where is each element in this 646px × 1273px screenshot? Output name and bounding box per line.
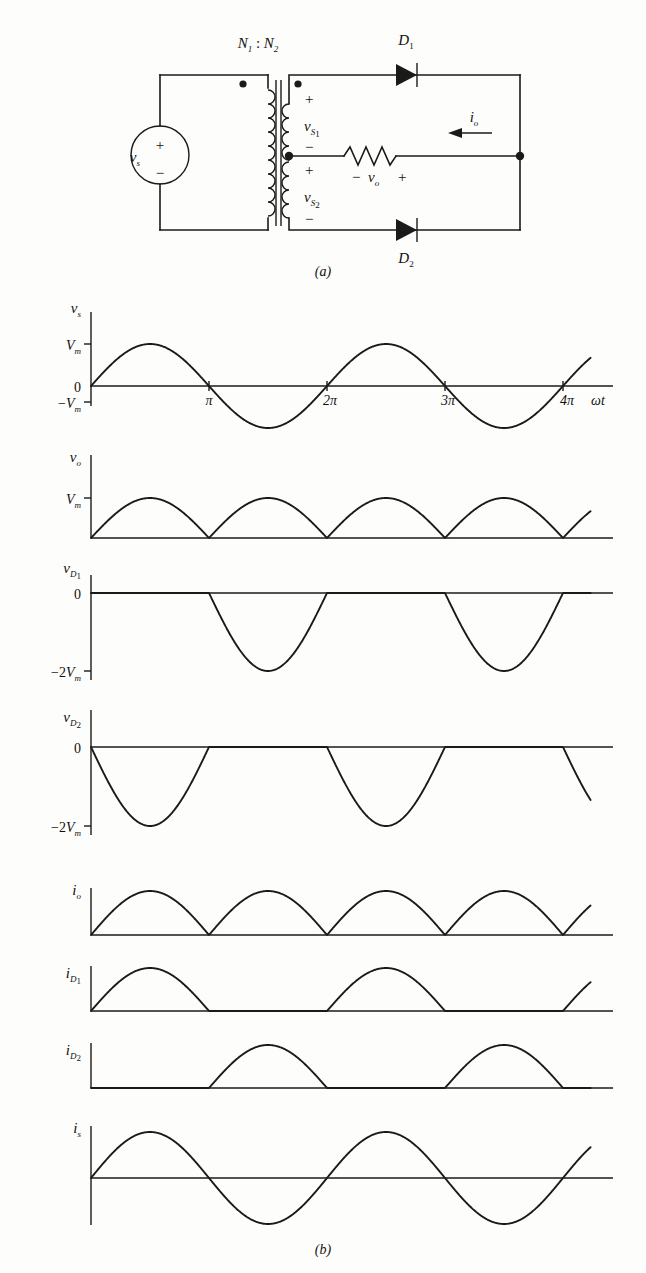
vd1-ylabel-neg2vm: −2Vm <box>51 665 81 683</box>
vs-xtick-4pi: 4π <box>560 393 575 408</box>
output-voltage-label: vo <box>368 169 380 188</box>
primary-winding <box>268 90 275 216</box>
vd1-axis-label: vD1 <box>63 560 81 581</box>
resistor-symbol <box>344 147 396 165</box>
caption-b: (b) <box>315 1242 332 1258</box>
io-waveform <box>91 891 591 935</box>
secondary-top-voltage-label: vS1 <box>304 118 320 139</box>
turns-ratio-label: N1 : N2 <box>237 35 279 54</box>
plot-vs: vs Vm 0 −Vm π 2π 3π 4π ωt <box>58 300 613 428</box>
diode-d2-label: D2 <box>397 250 413 269</box>
primary-polarity-dot-icon <box>239 80 246 87</box>
diode-d1-triangle <box>396 64 417 86</box>
circuit-diagram: vs + − N1 : N2 + vS1 <box>130 32 524 280</box>
io-axis-label: io <box>72 882 81 901</box>
diode-d1-label: D1 <box>397 32 413 51</box>
vo-ylabel-vm: Vm <box>66 492 82 510</box>
secondary-top-minus-sign: − <box>305 139 313 155</box>
plot-vo: vo Vm <box>66 449 613 538</box>
vs-ylabel-neg-vm: −Vm <box>58 396 81 414</box>
vd2-waveform <box>91 747 591 826</box>
vs-ylabel-vm: Vm <box>66 338 82 356</box>
vs-xtick-2pi: 2π <box>323 393 338 408</box>
plot-vd1: vD1 0 −2Vm <box>51 560 613 683</box>
secondary-top-plus-sign: + <box>305 91 313 107</box>
id1-axis-label: iD1 <box>66 965 81 986</box>
plot-vd2: vD2 0 −2Vm <box>51 709 613 838</box>
vo-axis-label: vo <box>70 449 82 468</box>
output-voltage-plus-sign: + <box>398 169 406 185</box>
vd2-ylabel-zero: 0 <box>74 741 81 756</box>
primary-coil-turns <box>268 90 275 216</box>
vo-waveform <box>91 498 591 538</box>
id1-waveform <box>91 968 591 1011</box>
io-arrow-head <box>448 128 462 138</box>
source-plus-sign: + <box>156 137 164 153</box>
vs-ylabel-zero: 0 <box>74 380 81 395</box>
secondary-bottom-coil-turns <box>282 162 289 218</box>
diode-d2-triangle <box>396 219 417 241</box>
vs-axis-label: vs <box>71 300 82 319</box>
plot-id2: iD2 <box>66 1042 613 1088</box>
vd1-ylabel-zero: 0 <box>74 587 81 602</box>
source-label: vs <box>130 149 141 168</box>
output-voltage-minus-sign: − <box>352 169 360 185</box>
vs-xtick-pi: π <box>205 393 213 408</box>
plot-is: is <box>73 1120 613 1225</box>
plot-io: io <box>72 882 613 935</box>
figure-root: vs + − N1 : N2 + vS1 <box>0 0 646 1273</box>
vd1-waveform <box>91 593 591 671</box>
output-current-label: io <box>470 109 479 128</box>
secondary-bottom-voltage-label: vS2 <box>304 189 320 210</box>
output-current-arrow-icon <box>448 128 492 138</box>
secondary-bottom-plus-sign: + <box>305 162 313 178</box>
figure-svg: vs + − N1 : N2 + vS1 <box>0 0 646 1273</box>
caption-a: (a) <box>315 264 332 280</box>
is-axis-label: is <box>73 1120 81 1139</box>
id2-axis-label: iD2 <box>66 1042 81 1063</box>
secondary-winding-bottom <box>282 162 289 218</box>
vs-xtick-3pi: 3π <box>440 393 456 408</box>
id2-waveform <box>91 1045 591 1088</box>
diode-d2-symbol <box>396 218 417 242</box>
secondary-bottom-minus-sign: − <box>305 211 313 227</box>
secondary-top-coil-turns <box>282 104 289 160</box>
secondary-polarity-dot-icon <box>294 80 301 87</box>
diode-d1-symbol <box>396 63 417 87</box>
source-minus-sign: − <box>156 165 164 181</box>
secondary-winding-top <box>282 104 289 160</box>
vd2-axis-label: vD2 <box>63 709 81 730</box>
plot-id1: iD1 <box>66 965 613 1011</box>
vd2-ylabel-neg2vm: −2Vm <box>51 820 81 838</box>
vs-x-axis-label: ωt <box>591 393 606 408</box>
